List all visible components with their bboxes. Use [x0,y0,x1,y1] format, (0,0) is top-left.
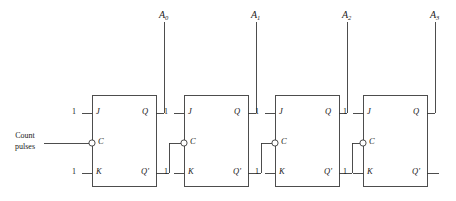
k-constant-label-0: 1 [72,168,76,176]
clock-bubble-3 [360,140,366,146]
clock-bubble-1 [181,140,187,146]
j-constant-label-3: 1 [343,108,347,116]
output-label-A1: A1 [251,10,260,21]
count-pulses-label: Countpulses [8,131,42,153]
output-label-A3: A3 [430,10,439,21]
count-pulses-line2: pulses [8,142,42,153]
pin-k-label-1: K [188,167,194,176]
pin-c-label-0: C [98,137,104,146]
j-constant-label-0: 1 [72,108,76,116]
k-constant-label-2: 1 [255,168,259,176]
pin-q-label-3: Q [413,107,419,116]
pin-qbar-label-1: Q' [233,167,241,176]
pin-c-label-3: C [369,137,375,146]
pin-c-label-2: C [281,137,287,146]
clock-bubble-2 [272,140,278,146]
j-constant-label-2: 1 [255,108,259,116]
clock-bubble-0 [89,140,95,146]
ripple-counter-diagram: 1J1KCQQ'A01J1KCQQ'A11J1KCQQ'A21J1KCQQ'A3… [0,0,456,201]
pin-qbar-label-0: Q' [141,167,149,176]
pin-k-label-2: K [279,167,285,176]
pin-j-label-3: J [367,107,371,116]
count-pulses-line1: Count [8,131,42,142]
pin-qbar-label-3: Q' [412,167,420,176]
pin-j-label-2: J [279,107,283,116]
pin-k-label-0: K [96,167,102,176]
pin-k-label-3: K [367,167,373,176]
pin-q-label-2: Q [325,107,331,116]
k-constant-label-1: 1 [164,168,168,176]
pin-j-label-0: J [96,107,100,116]
output-label-A0: A0 [159,10,168,21]
pin-q-label-1: Q [234,107,240,116]
pin-j-label-1: J [188,107,192,116]
k-constant-label-3: 1 [343,168,347,176]
pin-qbar-label-2: Q' [324,167,332,176]
j-constant-label-1: 1 [164,108,168,116]
output-label-A2: A2 [342,10,351,21]
pin-c-label-1: C [190,137,196,146]
pin-q-label-0: Q [142,107,148,116]
schematic-canvas [0,0,456,201]
